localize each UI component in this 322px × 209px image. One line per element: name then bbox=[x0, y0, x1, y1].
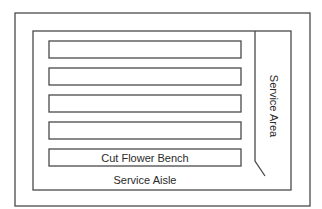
cut-flower-bench-label: Cut Flower Bench bbox=[101, 152, 188, 164]
bench-2 bbox=[49, 68, 241, 85]
bench-4 bbox=[49, 122, 241, 139]
greenhouse-layout-diagram: Cut Flower Bench Service Aisle Service A… bbox=[0, 0, 322, 209]
bench-1 bbox=[49, 41, 241, 58]
bench-3 bbox=[49, 95, 241, 112]
service-area-label: Service Area bbox=[268, 75, 280, 138]
service-aisle-label: Service Aisle bbox=[114, 174, 177, 186]
service-area-divider bbox=[255, 31, 265, 176]
